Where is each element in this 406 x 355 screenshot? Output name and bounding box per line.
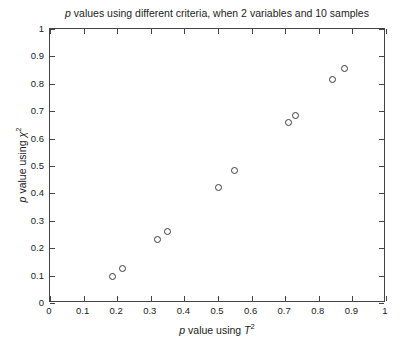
- y-tick-mark: [50, 84, 55, 85]
- x-axis-label: p value using T2: [49, 322, 385, 336]
- y-tick-label: 0.7: [31, 105, 44, 116]
- x-tick-mark-top: [117, 29, 118, 34]
- x-tick-mark: [352, 296, 353, 301]
- y-tick-mark: [50, 221, 55, 222]
- y-tick-mark: [50, 29, 55, 30]
- x-tick-mark: [319, 296, 320, 301]
- y-axis-label-italic-p: p: [16, 197, 28, 203]
- x-axis-label-exponent: 2: [251, 322, 255, 331]
- x-tick-label: 0.4: [177, 305, 190, 316]
- data-point: [329, 76, 336, 83]
- x-tick-mark: [386, 296, 387, 301]
- y-tick-mark-right: [379, 193, 384, 194]
- data-point: [215, 184, 222, 191]
- y-tick-mark: [50, 248, 55, 249]
- x-tick-label: 0.2: [110, 305, 123, 316]
- y-tick-label: 1: [39, 23, 44, 34]
- x-tick-mark: [285, 296, 286, 301]
- y-tick-mark-right: [379, 139, 384, 140]
- x-tick-mark: [252, 296, 253, 301]
- y-tick-label: 0.1: [31, 269, 44, 280]
- x-tick-label: 0.5: [210, 305, 223, 316]
- x-tick-mark-top: [319, 29, 320, 34]
- x-tick-label: 0.3: [143, 305, 156, 316]
- data-point: [341, 65, 348, 72]
- x-tick-mark: [117, 296, 118, 301]
- y-tick-label: 0.6: [31, 132, 44, 143]
- y-tick-mark-right: [379, 221, 384, 222]
- y-tick-mark-right: [379, 56, 384, 57]
- data-point-layer: [50, 29, 384, 301]
- y-tick-mark: [50, 166, 55, 167]
- x-axis-label-mid: value using: [185, 324, 244, 336]
- x-tick-mark: [84, 296, 85, 301]
- x-tick-mark: [50, 296, 51, 301]
- chart-title-rest: values using different criteria, when 2 …: [71, 7, 369, 19]
- plot-area: [49, 28, 385, 302]
- x-tick-label: 0.7: [278, 305, 291, 316]
- data-point: [292, 112, 299, 119]
- x-tick-mark-top: [252, 29, 253, 34]
- y-tick-label: 0: [39, 297, 44, 308]
- y-tick-mark: [50, 111, 55, 112]
- y-tick-mark-right: [379, 84, 384, 85]
- x-tick-mark-top: [151, 29, 152, 34]
- x-tick-mark: [184, 296, 185, 301]
- data-point: [164, 228, 171, 235]
- chart-title: p values using different criteria, when …: [49, 7, 385, 20]
- y-axis-label: p value using χ2: [14, 28, 28, 302]
- data-point: [231, 167, 238, 174]
- y-tick-label: 0.9: [31, 50, 44, 61]
- y-tick-label: 0.5: [31, 160, 44, 171]
- x-tick-mark-top: [386, 29, 387, 34]
- y-tick-label: 0.4: [31, 187, 44, 198]
- x-tick-label: 0.6: [244, 305, 257, 316]
- x-tick-label: 0.1: [76, 305, 89, 316]
- x-tick-label: 1: [382, 305, 387, 316]
- y-axis-label-exponent: 2: [14, 128, 23, 132]
- y-tick-mark-right: [379, 303, 384, 304]
- y-tick-mark: [50, 193, 55, 194]
- y-tick-mark-right: [379, 166, 384, 167]
- y-tick-mark-right: [379, 29, 384, 30]
- y-tick-label: 0.8: [31, 77, 44, 88]
- x-tick-mark-top: [184, 29, 185, 34]
- x-tick-label: 0.9: [345, 305, 358, 316]
- y-tick-mark: [50, 303, 55, 304]
- data-point: [154, 236, 161, 243]
- x-tick-label: 0.8: [311, 305, 324, 316]
- y-tick-label: 0.3: [31, 214, 44, 225]
- data-point: [109, 273, 116, 280]
- y-tick-mark: [50, 276, 55, 277]
- data-point: [119, 265, 126, 272]
- y-tick-mark-right: [379, 276, 384, 277]
- x-tick-label: 0: [46, 305, 51, 316]
- y-axis-label-mid: value using: [16, 138, 28, 197]
- x-tick-mark-top: [285, 29, 286, 34]
- y-axis-label-symbol: χ: [16, 132, 28, 138]
- x-tick-mark-top: [352, 29, 353, 34]
- y-tick-mark-right: [379, 111, 384, 112]
- data-point: [285, 119, 292, 126]
- y-tick-mark-right: [379, 248, 384, 249]
- figure-container: p values using different criteria, when …: [0, 0, 406, 355]
- y-tick-label: 0.2: [31, 242, 44, 253]
- x-tick-mark-top: [84, 29, 85, 34]
- x-tick-mark: [218, 296, 219, 301]
- y-tick-mark: [50, 56, 55, 57]
- y-tick-mark: [50, 139, 55, 140]
- x-tick-mark-top: [218, 29, 219, 34]
- x-tick-mark: [151, 296, 152, 301]
